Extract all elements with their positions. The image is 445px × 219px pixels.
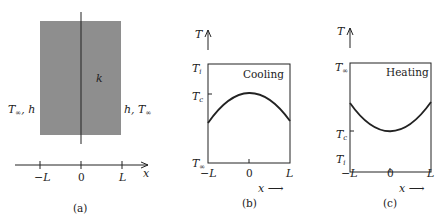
tick-label-zero: 0 xyxy=(387,167,394,179)
caption-c: (c) xyxy=(383,197,397,209)
left-boundary-label: T∞, h xyxy=(8,103,35,117)
level-tc: Tc xyxy=(192,90,203,104)
figure-canvas: k T∞, h h, T∞ −L 0 L x (a) T Cooling Ti … xyxy=(0,0,445,219)
tick-label-zero: 0 xyxy=(246,167,253,179)
tick-label-neg-L: −L xyxy=(200,167,217,180)
panel-a: k T∞, h h, T∞ −L 0 L x (a) xyxy=(8,12,151,214)
tick-label-zero: 0 xyxy=(78,171,85,183)
level-tinf: T∞ xyxy=(335,61,348,75)
tick-label-neg-L: −L xyxy=(341,167,358,180)
panel-c: T Heating T∞ Tc Ti −L 0 L x ⟶ (c) xyxy=(335,25,434,209)
heating-title: Heating xyxy=(386,66,429,78)
caption-b: (b) xyxy=(242,197,257,209)
cooling-title: Cooling xyxy=(243,68,284,80)
y-axis-label: T xyxy=(195,28,204,41)
tick-label-L: L xyxy=(118,171,126,184)
cooling-curve xyxy=(208,93,290,123)
tick-label-L: L xyxy=(285,167,293,180)
panel-b: T Cooling Ti Tc T∞ −L 0 L x ⟶ (b) xyxy=(192,28,293,209)
tick-label-neg-L: −L xyxy=(34,171,51,184)
level-tc: Tc xyxy=(336,128,347,142)
level-ti: Ti xyxy=(336,153,346,167)
y-axis-label: T xyxy=(337,25,346,38)
x-direction-label: x ⟶ xyxy=(258,182,284,195)
tick-label-L: L xyxy=(426,167,434,180)
heating-curve xyxy=(350,102,431,131)
level-ti: Ti xyxy=(192,62,202,76)
caption-a: (a) xyxy=(73,202,87,214)
right-boundary-label: h, T∞ xyxy=(124,103,151,117)
conductivity-label: k xyxy=(96,72,103,85)
x-axis-label: x xyxy=(143,167,150,180)
x-direction-label: x ⟶ xyxy=(399,182,425,195)
